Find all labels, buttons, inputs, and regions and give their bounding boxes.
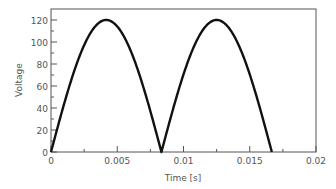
y-tick-label: 40 — [37, 104, 49, 114]
x-tick-label: 0.01 — [173, 156, 193, 166]
x-tick-label: 0.015 — [237, 156, 263, 166]
x-tick-label: 0 — [48, 156, 54, 166]
y-axis-ticks: 020406080100120 — [31, 16, 57, 158]
voltage-curve — [51, 20, 272, 152]
x-tick-label: 0.005 — [104, 156, 130, 166]
y-tick-label: 100 — [31, 38, 48, 48]
voltage-chart: 020406080100120 00.0050.010.0150.02 Time… — [0, 0, 336, 189]
y-tick-label: 60 — [37, 82, 49, 92]
y-tick-label: 20 — [37, 126, 49, 136]
y-tick-label: 80 — [37, 60, 49, 70]
y-tick-label: 120 — [31, 16, 48, 26]
y-axis-label: Voltage — [14, 63, 24, 97]
x-tick-label: 0.02 — [306, 156, 326, 166]
x-axis-ticks: 00.0050.010.0150.02 — [48, 146, 326, 166]
x-axis-label: Time [s] — [164, 173, 202, 183]
